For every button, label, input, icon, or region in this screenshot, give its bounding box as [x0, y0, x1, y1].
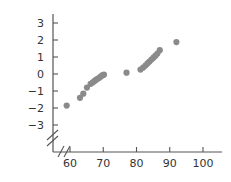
chart-canvas: 3210−1−2−3 60708090100 [0, 0, 231, 182]
y-tick-label: −1 [28, 85, 44, 98]
data-points [64, 39, 180, 109]
x-tick-label: 60 [63, 157, 77, 170]
x-axis-ticks: 60708090100 [63, 147, 214, 170]
y-tick-label: 1 [37, 51, 44, 64]
data-point [157, 47, 163, 53]
scatter-plot: 3210−1−2−3 60708090100 [0, 0, 231, 182]
x-tick-label: 90 [163, 157, 177, 170]
y-tick-label: 0 [37, 68, 44, 81]
x-tick-label: 80 [130, 157, 144, 170]
x-tick-label: 100 [193, 157, 214, 170]
axis-break-marks [47, 130, 70, 157]
y-tick-label: 3 [37, 17, 44, 30]
data-point [123, 70, 129, 76]
data-point [101, 72, 107, 78]
y-tick-label: −3 [28, 119, 44, 132]
y-tick-label: 2 [37, 34, 44, 47]
x-tick-label: 70 [96, 157, 110, 170]
data-point [64, 103, 70, 109]
data-point [80, 91, 86, 97]
data-point [173, 39, 179, 45]
y-tick-label: −2 [28, 102, 44, 115]
